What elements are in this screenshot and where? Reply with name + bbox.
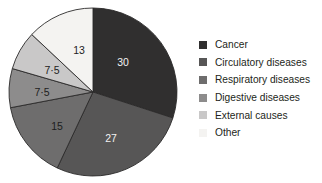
pie-slice-value-label: 13 [73,44,85,56]
pie-chart-plot-area: 3027157·57·513 [0,0,196,183]
pie-slice-value-label: 27 [105,132,117,144]
pie-slice-value-label: 7·5 [34,86,49,98]
pie-slice-value-label: 15 [51,120,63,132]
legend-swatch-icon [199,76,207,84]
legend-swatch-icon [199,111,207,119]
legend-item-label: Digestive diseases [215,92,300,103]
legend-item-label: Circulatory diseases [215,57,307,68]
legend-item[interactable]: External causes [199,106,319,124]
legend-item-label: Other [215,127,240,138]
pie-chart-figure: 3027157·57·513 CancerCirculatory disease… [0,0,322,183]
pie-chart-svg: 3027157·57·513 [0,0,196,183]
legend-swatch-icon [199,58,207,66]
legend-item-label: External causes [215,110,287,121]
pie-slice-value-label: 7·5 [44,64,59,76]
legend-item[interactable]: Digestive diseases [199,89,319,107]
legend-item[interactable]: Other [199,124,319,142]
legend-item[interactable]: Circulatory diseases [199,54,319,72]
chart-legend: CancerCirculatory diseasesRespiratory di… [199,36,319,142]
legend-item-label: Cancer [215,39,248,50]
pie-slice-value-label: 30 [117,56,129,68]
legend-swatch-icon [199,94,207,102]
legend-item[interactable]: Respiratory diseases [199,71,319,89]
legend-item-label: Respiratory diseases [215,74,310,85]
legend-swatch-icon [199,129,207,137]
legend-item[interactable]: Cancer [199,36,319,54]
legend-swatch-icon [199,41,207,49]
